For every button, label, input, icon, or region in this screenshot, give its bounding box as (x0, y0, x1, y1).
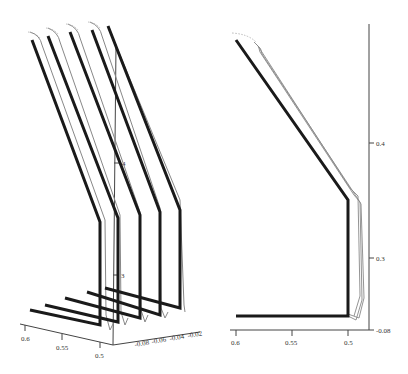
x-tick-1: 0.55 (285, 339, 298, 347)
left-3d-plot: 0.6 0.55 0.5 -0.08 -0.06 -0.04 -0.02 3 4 (0, 0, 204, 374)
right-2d-plot: 0.6 0.55 0.5 -0.08 0.3 0.4 (204, 0, 408, 374)
y-tick-1: -0.06 (151, 335, 167, 345)
y-tick-0: -0.08 (134, 338, 150, 348)
right-plot-canvas: 0.6 0.55 0.5 -0.08 0.3 0.4 (204, 0, 408, 374)
left-plot-canvas: 0.6 0.55 0.5 -0.08 -0.06 -0.04 -0.02 3 4 (0, 0, 204, 374)
dotted-starts (28, 22, 100, 38)
y-tick-2: -0.04 (169, 332, 185, 342)
black-profiles (30, 26, 180, 325)
y-tick-0: -0.08 (376, 327, 391, 335)
x-tick-2: 0.5 (95, 352, 104, 360)
thick-profile (236, 40, 348, 316)
x-tick-1: 0.55 (56, 344, 69, 352)
x-tick-0: 0.6 (231, 339, 240, 347)
z-tick-0: 3 (121, 272, 125, 280)
y-tick-1: 0.3 (376, 255, 385, 263)
x-axis-line (20, 324, 113, 345)
x-tick-2: 0.5 (344, 339, 353, 347)
x-tick-0: 0.6 (21, 335, 30, 343)
y-tick-2: 0.4 (376, 140, 385, 148)
y-tick-3: -0.02 (187, 329, 203, 339)
